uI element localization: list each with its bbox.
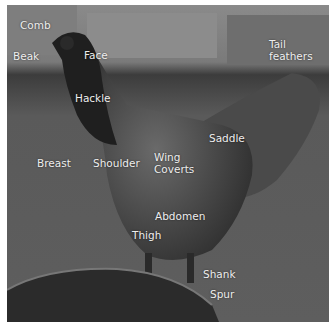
label-shank: Shank <box>203 268 236 280</box>
label-breast: Breast <box>37 157 71 169</box>
label-wing-coverts: Wing Coverts <box>154 151 194 175</box>
label-tail-feathers: Tail feathers <box>269 38 313 62</box>
label-saddle: Saddle <box>209 132 245 144</box>
label-beak: Beak <box>13 50 39 62</box>
label-comb: Comb <box>20 19 51 31</box>
label-abdomen: Abdomen <box>155 210 205 222</box>
label-thigh: Thigh <box>132 229 161 241</box>
label-shoulder: Shoulder <box>93 157 140 169</box>
label-face: Face <box>84 49 108 61</box>
label-spur: Spur <box>210 288 234 300</box>
label-hackle: Hackle <box>75 92 111 104</box>
